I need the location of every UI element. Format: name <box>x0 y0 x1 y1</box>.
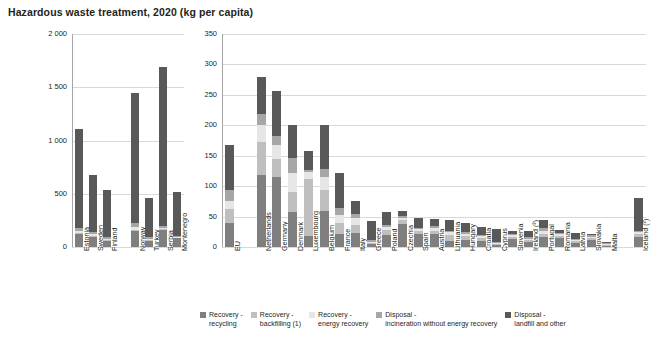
bar-stack <box>508 34 517 247</box>
right-chart-panel: 050100150200250300350EUNetherlandsGerman… <box>196 28 652 318</box>
y-axis-tick-label: 2 000 <box>33 29 67 38</box>
bar-stack <box>103 34 111 247</box>
bar-segment <box>288 173 297 191</box>
bar-stack <box>335 34 344 247</box>
bar-segment <box>257 114 266 125</box>
bar-segment <box>351 225 360 234</box>
bar-stack <box>398 34 407 247</box>
y-axis-tick-label: 1 000 <box>33 136 67 145</box>
bar-segment <box>272 136 281 146</box>
legend-swatch-incineration <box>376 312 382 318</box>
bar-stack <box>539 34 548 247</box>
bar-stack <box>145 34 153 247</box>
legend-item-landfill[interactable]: Disposal - landfill and other <box>505 311 565 328</box>
y-axis-tick-label: 0 <box>33 242 67 251</box>
bar-segment <box>335 173 344 208</box>
y-axis-tick-label: 350 <box>183 29 217 38</box>
bar-segment <box>304 172 313 179</box>
legend-item-recycling[interactable]: Recovery - recycling <box>200 311 243 328</box>
legend-swatch-recycling <box>200 312 206 318</box>
bar-segment <box>335 215 344 224</box>
bar-stack <box>89 34 97 247</box>
bar-stack <box>555 34 564 247</box>
legend-label-backfilling: Recovery - backfilling (1) <box>260 311 301 328</box>
bar-segment <box>225 145 234 189</box>
legend-item-energy[interactable]: Recovery - energy recovery <box>309 311 368 328</box>
y-axis-tick-label: 500 <box>33 189 67 198</box>
bar-stack <box>159 34 167 247</box>
y-axis-tick-label: 0 <box>183 242 217 251</box>
legend-swatch-energy <box>309 312 315 318</box>
bar-segment <box>288 125 297 158</box>
bar-segment <box>320 169 329 178</box>
bar-segment <box>75 129 83 228</box>
y-axis-tick-label: 150 <box>183 151 217 160</box>
y-axis-tick-label: 300 <box>183 59 217 68</box>
bar-segment <box>288 158 297 174</box>
bar-stack <box>571 34 580 247</box>
x-axis-category-label: Malta <box>610 233 619 251</box>
bar-segment <box>272 159 281 177</box>
bar-segment <box>272 91 281 136</box>
bar-segment <box>89 175 97 233</box>
bar-stack <box>75 34 83 247</box>
bar-stack <box>272 34 281 247</box>
bar-segment <box>335 208 344 215</box>
bar-stack <box>414 34 423 247</box>
y-axis-line <box>72 34 73 247</box>
legend-swatch-landfill <box>505 312 511 318</box>
legend-swatch-backfilling <box>251 312 257 318</box>
bar-segment <box>288 192 297 212</box>
bar-segment <box>131 93 139 223</box>
bar-stack <box>367 34 376 247</box>
bar-stack <box>461 34 470 247</box>
bar-stack <box>445 34 454 247</box>
bar-segment <box>257 77 266 114</box>
bar-stack <box>131 34 139 247</box>
bar-segment <box>272 145 281 158</box>
y-axis-line <box>222 34 223 247</box>
x-axis-category-label: Iceland (²) <box>641 219 650 251</box>
bar-segment <box>382 212 391 224</box>
chart-legend: Recovery - recyclingRecovery - backfilli… <box>200 311 652 328</box>
bar-segment <box>320 177 329 190</box>
bar-segment <box>159 67 167 226</box>
bar-stack <box>320 34 329 247</box>
y-axis-tick-label: 50 <box>183 212 217 221</box>
bar-segment <box>225 201 234 210</box>
bar-stack <box>288 34 297 247</box>
bar-stack <box>477 34 486 247</box>
bar-stack <box>602 34 611 247</box>
left-plot-area: 05001 0001 5002 000EstoniaSwedenFinlandN… <box>72 34 184 247</box>
y-axis-tick-label: 100 <box>183 181 217 190</box>
right-plot-area: 050100150200250300350EUNetherlandsGerman… <box>222 34 646 247</box>
bar-segment <box>225 209 234 222</box>
y-axis-tick-label: 250 <box>183 90 217 99</box>
y-axis-tick-label: 200 <box>183 120 217 129</box>
legend-item-backfilling[interactable]: Recovery - backfilling (1) <box>251 311 301 328</box>
bar-segment <box>304 151 313 169</box>
bar-segment <box>257 142 266 175</box>
x-axis-category-label: Finland <box>110 227 119 251</box>
bar-segment <box>430 219 439 226</box>
bar-segment <box>225 190 234 201</box>
bar-stack <box>225 34 234 247</box>
y-axis-tick-label: 1 500 <box>33 82 67 91</box>
legend-label-landfill: Disposal - landfill and other <box>514 311 565 328</box>
bar-stack <box>382 34 391 247</box>
bar-segment <box>257 125 266 142</box>
legend-item-incineration[interactable]: Disposal - incineration without energy r… <box>376 311 497 328</box>
left-chart-panel: 05001 0001 5002 000EstoniaSwedenFinlandN… <box>28 28 188 318</box>
legend-label-energy: Recovery - energy recovery <box>318 311 368 328</box>
bar-stack <box>492 34 501 247</box>
bar-stack <box>430 34 439 247</box>
bar-segment <box>320 125 329 168</box>
page-title: Hazardous waste treatment, 2020 (kg per … <box>8 6 253 18</box>
bar-segment <box>414 218 423 228</box>
bar-stack <box>587 34 596 247</box>
bar-segment <box>320 190 329 210</box>
bar-segment <box>351 201 360 213</box>
legend-label-incineration: Disposal - incineration without energy r… <box>385 311 497 328</box>
x-axis-category-label: EU <box>233 241 242 251</box>
bar-stack <box>351 34 360 247</box>
